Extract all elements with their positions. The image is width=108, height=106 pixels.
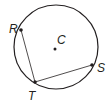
label-c: C	[57, 33, 66, 47]
label-r: R	[9, 22, 18, 36]
label-t: T	[28, 89, 37, 103]
circle-diagram: R S T C	[0, 0, 108, 106]
label-s: S	[97, 61, 105, 75]
point-t	[33, 80, 37, 84]
point-s	[90, 63, 94, 67]
chord-rt	[21, 30, 35, 82]
circle	[14, 5, 98, 89]
point-r	[19, 28, 23, 32]
center-point-c	[54, 48, 57, 51]
